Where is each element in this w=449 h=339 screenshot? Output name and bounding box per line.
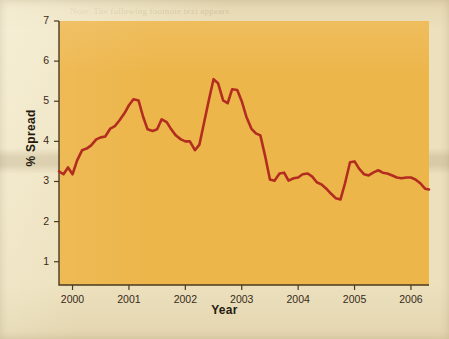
y-tick-label: 2 (25, 215, 49, 227)
y-tick-label: 6 (25, 54, 49, 66)
chart-series-layer (0, 0, 449, 339)
line-chart-figure: 1234567 2000200120022003200420052006 % S… (0, 0, 449, 339)
x-axis-title: Year (0, 303, 449, 317)
y-tick-label: 1 (25, 255, 49, 267)
y-tick-label: 7 (25, 14, 49, 26)
y-axis-title: % Spread (24, 93, 38, 183)
scanned-page: Note: The following footnote text appear… (0, 0, 449, 339)
spread-series-line (59, 79, 429, 199)
